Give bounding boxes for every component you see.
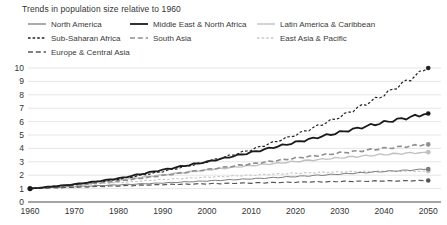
x-axis-tick-1990: 1990 <box>153 206 172 216</box>
legend-item-south-asia: South Asia <box>130 32 191 44</box>
x-axis-tick-2040: 2040 <box>375 206 394 216</box>
y-axis-tick-1: 1 <box>19 184 24 194</box>
legend-label-latin-america-and-caribbean: Latin America & Caribbean <box>280 20 375 29</box>
legend-item-middle-east-and-north-africa: Middle East & North Africa <box>130 18 246 30</box>
chart-figure: Trends in population size relative to 19… <box>0 0 447 225</box>
y-axis-tick-8: 8 <box>19 90 24 100</box>
legend-label-south-asia: South Asia <box>153 34 191 43</box>
y-axis-tick-6: 6 <box>19 117 24 127</box>
legend-swatch-east-asia-and-pacific-icon <box>257 33 275 43</box>
x-axis-tick-2020: 2020 <box>286 206 305 216</box>
x-axis-tick-1960: 1960 <box>21 206 40 216</box>
x-axis-tick-2000: 2000 <box>198 206 217 216</box>
legend-label-middle-east-and-north-africa: Middle East & North Africa <box>153 20 246 29</box>
series-endpoint-middle-east-and-north-africa <box>426 111 431 116</box>
legend-label-europe-and-central-asia: Europe & Central Asia <box>51 48 130 57</box>
y-axis-tick-9: 9 <box>19 76 24 86</box>
series-line-sub-saharan-africa <box>30 68 428 189</box>
legend-label-north-america: North America <box>51 20 102 29</box>
legend-swatch-middle-east-and-north-africa-icon <box>130 19 148 29</box>
legend-swatch-europe-and-central-asia-icon <box>28 47 46 57</box>
y-axis-tick-7: 7 <box>19 103 24 113</box>
legend-item-east-asia-and-pacific: East Asia & Pacific <box>257 32 347 44</box>
x-axis-tick-2010: 2010 <box>242 206 261 216</box>
legend-item-europe-and-central-asia: Europe & Central Asia <box>28 46 130 58</box>
y-axis-tick-2: 2 <box>19 170 24 180</box>
legend-item-north-america: North America <box>28 18 102 30</box>
series-line-north-america <box>30 169 428 189</box>
legend-swatch-latin-america-and-caribbean-icon <box>257 19 275 29</box>
series-start-marker <box>27 186 32 191</box>
line-chart-plot-area: 0123456789101960197019801990200020102020… <box>0 62 447 225</box>
series-endpoint-sub-saharan-africa <box>426 66 431 71</box>
legend-item-sub-saharan-africa: Sub-Saharan Africa <box>28 32 120 44</box>
legend-swatch-sub-saharan-africa-icon <box>28 33 46 43</box>
series-endpoint-north-america <box>426 167 431 172</box>
legend-swatch-south-asia-icon <box>130 33 148 43</box>
x-axis-tick-2030: 2030 <box>330 206 349 216</box>
chart-title: Trends in population size relative to 19… <box>22 4 181 14</box>
series-endpoint-europe-and-central-asia <box>426 178 431 183</box>
x-axis-tick-1980: 1980 <box>109 206 128 216</box>
legend-label-sub-saharan-africa: Sub-Saharan Africa <box>51 34 120 43</box>
legend-swatch-north-america-icon <box>28 19 46 29</box>
series-endpoint-latin-america-and-caribbean <box>426 150 431 155</box>
legend-label-east-asia-and-pacific: East Asia & Pacific <box>280 34 347 43</box>
y-axis-tick-4: 4 <box>19 143 24 153</box>
x-axis-tick-1970: 1970 <box>65 206 84 216</box>
legend-item-latin-america-and-caribbean: Latin America & Caribbean <box>257 18 375 30</box>
series-line-middle-east-and-north-africa <box>30 114 428 189</box>
series-endpoint-south-asia <box>426 142 431 147</box>
chart-legend: North AmericaMiddle East & North AfricaL… <box>0 16 447 60</box>
y-axis-tick-5: 5 <box>19 130 24 140</box>
x-axis-tick-2050: 2050 <box>419 206 438 216</box>
y-axis-tick-3: 3 <box>19 157 24 167</box>
y-axis-tick-10: 10 <box>15 63 25 73</box>
